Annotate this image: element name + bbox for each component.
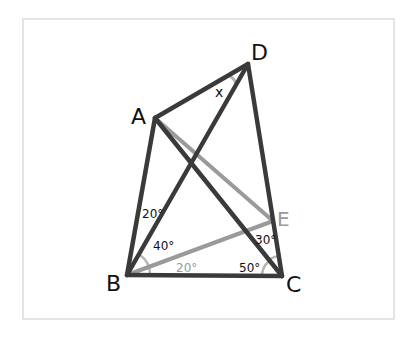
angle-label-BCA: 50°: [239, 261, 260, 275]
segment-BC: [127, 275, 282, 276]
vertex-label-D: D: [251, 40, 268, 65]
angle-label-EBC: 20°: [176, 261, 197, 275]
angle-label-DBE: 40°: [153, 239, 174, 253]
vertex-label-B: B: [106, 271, 121, 296]
vertex-label-C: C: [286, 272, 301, 297]
vertex-label-E: E: [277, 207, 290, 231]
angle-label-x: x: [215, 84, 223, 100]
angle-label-ACD: 30°: [255, 233, 276, 247]
geometry-diagram: A D B C E x 20° 40° 20° 50° 30°: [0, 0, 414, 342]
vertex-label-A: A: [131, 104, 146, 129]
angle-label-ABD: 20°: [142, 207, 163, 221]
